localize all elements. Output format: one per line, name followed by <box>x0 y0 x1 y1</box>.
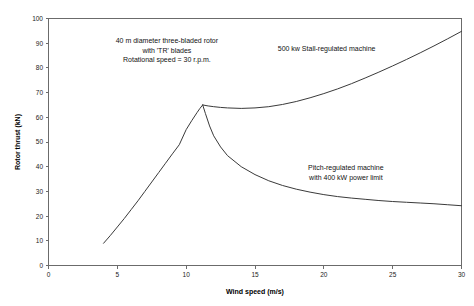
rotor-spec-line: Rotational speed = 30 r.p.m. <box>123 56 211 64</box>
y-axis-ticks: 0102030405060708090100 <box>32 15 48 269</box>
pitch-label-line: with 400 kW power limit <box>308 174 383 182</box>
frame-border <box>49 19 462 266</box>
chart-annotations: 40 m diameter three-bladed rotorwith 'TR… <box>116 37 384 182</box>
rotor-spec-line: with 'TR' blades <box>141 47 191 54</box>
y-tick-label: 90 <box>36 40 44 47</box>
x-tick-label: 5 <box>116 271 120 278</box>
x-tick-label: 15 <box>251 271 259 278</box>
y-tick-label: 40 <box>36 163 44 170</box>
y-tick-label: 60 <box>36 114 44 121</box>
y-tick-label: 50 <box>36 138 44 145</box>
rotor-spec-line: 40 m diameter three-bladed rotor <box>116 37 219 44</box>
y-tick-label: 10 <box>36 237 44 244</box>
series-line <box>203 31 462 108</box>
x-tick-label: 0 <box>47 271 51 278</box>
rotor-thrust-chart: 0102030405060708090100 051015202530 40 m… <box>0 0 474 306</box>
x-axis-title: Wind speed (m/s) <box>226 288 284 296</box>
pitch-label-line: Pitch-regulated machine <box>308 164 384 172</box>
plot-frame <box>49 19 462 266</box>
y-axis-title: Rotor thrust (kN) <box>14 114 22 170</box>
x-tick-label: 30 <box>458 271 466 278</box>
y-tick-label: 70 <box>36 89 44 96</box>
y-tick-label: 100 <box>32 15 43 22</box>
x-tick-label: 25 <box>389 271 397 278</box>
x-axis-ticks: 051015202530 <box>47 266 466 278</box>
y-tick-label: 80 <box>36 64 44 71</box>
series-line <box>104 105 203 243</box>
x-tick-label: 20 <box>320 271 328 278</box>
x-tick-label: 10 <box>183 271 191 278</box>
chart-container: 0102030405060708090100 051015202530 40 m… <box>0 0 474 306</box>
y-tick-label: 30 <box>36 188 44 195</box>
y-tick-label: 20 <box>36 213 44 220</box>
stall-label-line: 500 kw Stall-regulated machine <box>278 45 376 53</box>
y-tick-label: 0 <box>39 262 43 269</box>
series-line <box>203 105 462 206</box>
